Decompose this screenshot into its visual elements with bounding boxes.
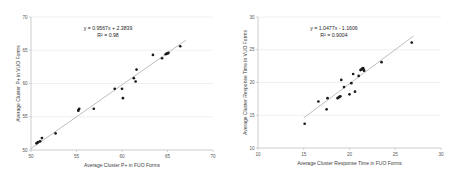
- x-tick-label: 10: [255, 152, 261, 157]
- x-tick-label: 60: [119, 154, 125, 159]
- chart-panel-right: 10152025301015202530y = 1.0477x - 1.1606…: [231, 0, 461, 180]
- y-tick-label: 60: [22, 81, 28, 86]
- data-point: [351, 73, 354, 76]
- equation-label: y = 1.0477x - 1.1606: [310, 25, 358, 31]
- scatter-chart-right: 10152025301015202530y = 1.0477x - 1.1606…: [231, 0, 461, 180]
- x-tick-label: 25: [392, 152, 398, 157]
- y-axis-title: Average Cluster P+ in VUO Forms: [15, 45, 21, 122]
- data-point: [362, 69, 365, 72]
- figure-container: 50556065705055606570y = 0.9567x + 2.3839…: [0, 0, 461, 180]
- data-point: [167, 52, 170, 55]
- data-point: [122, 97, 125, 100]
- data-point: [317, 100, 320, 103]
- data-point: [41, 137, 44, 140]
- y-axis-title: Average Cluster Response Time in VUO For…: [242, 30, 248, 135]
- data-point: [113, 87, 116, 90]
- data-point: [179, 45, 182, 48]
- y-tick-label: 50: [22, 148, 28, 153]
- data-point: [348, 93, 351, 96]
- equation-label: y = 0.9567x + 2.3839: [84, 25, 133, 31]
- x-tick-label: 30: [438, 152, 444, 157]
- y-tick-label: 20: [249, 80, 255, 85]
- y-tick-label: 25: [249, 47, 255, 52]
- data-point: [349, 82, 352, 85]
- trendline: [31, 40, 186, 148]
- data-point: [132, 77, 135, 80]
- data-point: [78, 107, 81, 110]
- data-point: [303, 122, 306, 125]
- data-point: [152, 54, 155, 57]
- data-point: [410, 41, 413, 44]
- x-tick-label: 15: [301, 152, 307, 157]
- data-point: [353, 90, 356, 93]
- plot-area-right: 10152025301015202530y = 1.0477x - 1.1606…: [242, 15, 444, 166]
- y-tick-label: 10: [249, 146, 255, 151]
- x-tick-label: 50: [28, 154, 34, 159]
- x-axis-title: Average Cluster Response Time in FUO For…: [297, 160, 402, 166]
- x-tick-label: 70: [210, 154, 216, 159]
- r-squared-label: R² = 0.98: [97, 32, 119, 38]
- y-tick-label: 65: [22, 48, 28, 53]
- data-point: [357, 75, 360, 78]
- data-point: [121, 87, 124, 90]
- data-point: [325, 108, 328, 111]
- data-point: [135, 68, 138, 71]
- data-point: [134, 80, 137, 83]
- data-point: [92, 107, 95, 110]
- x-tick-label: 20: [346, 152, 352, 157]
- plot-area-left: 50556065705055606570y = 0.9567x + 2.3839…: [15, 15, 216, 168]
- data-point: [326, 97, 329, 100]
- x-axis-title: Average Cluster P+ in FUO Forms: [84, 162, 161, 168]
- data-point: [339, 79, 342, 82]
- r-squared-label: R² = 0.9004: [320, 32, 347, 38]
- y-tick-label: 55: [22, 114, 28, 119]
- x-tick-label: 55: [74, 154, 80, 159]
- data-point: [54, 132, 57, 135]
- data-point: [39, 140, 42, 143]
- scatter-chart-left: 50556065705055606570y = 0.9567x + 2.3839…: [0, 0, 231, 180]
- x-tick-label: 65: [165, 154, 171, 159]
- y-tick-label: 70: [22, 15, 28, 20]
- data-point: [342, 86, 345, 89]
- chart-panel-left: 50556065705055606570y = 0.9567x + 2.3839…: [0, 0, 231, 180]
- data-point: [380, 61, 383, 64]
- y-tick-label: 30: [249, 15, 255, 20]
- data-point: [339, 95, 342, 98]
- data-point: [161, 57, 164, 60]
- y-tick-label: 15: [249, 113, 255, 118]
